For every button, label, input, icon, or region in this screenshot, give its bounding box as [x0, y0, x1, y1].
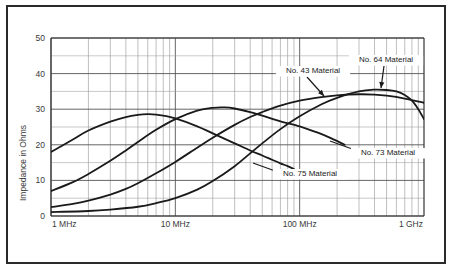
series-curve-no-75-material — [51, 114, 294, 169]
annotation-label: No. 43 Material — [286, 66, 340, 75]
grid-minor-horizontal — [51, 56, 424, 198]
annotation-arrowhead — [379, 82, 384, 88]
y-tick-label: 0 — [40, 211, 45, 221]
y-tick-label: 50 — [36, 33, 46, 43]
y-tick-label: 10 — [36, 175, 46, 185]
x-tick-label: 1 MHz — [52, 219, 77, 229]
y-tick-label: 40 — [36, 69, 46, 79]
annotation-label: No. 75 Material — [283, 169, 337, 178]
x-tick-label: 100 MHz — [283, 219, 317, 229]
y-tick-label: 30 — [36, 104, 46, 114]
y-axis-tick-labels: 01020304050 — [36, 33, 46, 221]
x-tick-label: 10 MHz — [161, 219, 190, 229]
annotation-label: No. 73 Material — [361, 148, 415, 157]
annotation-label: No. 64 Material — [359, 55, 413, 64]
y-tick-label: 20 — [36, 140, 46, 150]
y-axis-title: Impedance in Ohms — [18, 125, 28, 201]
x-tick-label: 1 GHz — [399, 219, 423, 229]
chart-page: 1 MHz10 MHz100 MHz1 GHz 01020304050 No. … — [0, 0, 453, 270]
x-axis-tick-labels: 1 MHz10 MHz100 MHz1 GHz — [52, 219, 423, 229]
impedance-chart: 1 MHz10 MHz100 MHz1 GHz 01020304050 No. … — [0, 0, 453, 270]
